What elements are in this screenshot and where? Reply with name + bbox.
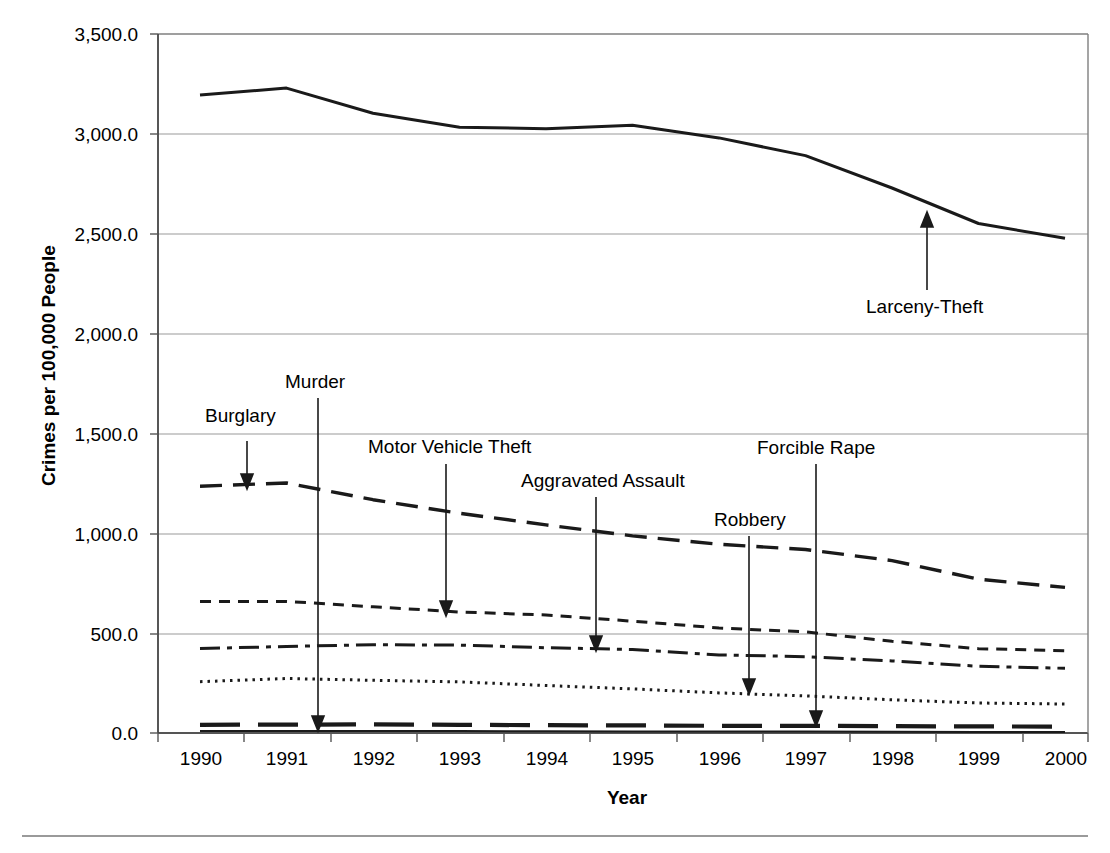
series-layer [200, 88, 1065, 732]
x-tick-label-1995: 1995 [588, 748, 678, 770]
y-axis-title: Crimes per 100,000 People [38, 245, 60, 486]
series-line-aggravated-assault [200, 645, 1065, 669]
annotation-label-aggravated-assault: Aggravated Assault [521, 470, 685, 492]
y-tick-label-1000: 1,000.0 [18, 524, 138, 546]
x-tick-label-1996: 1996 [675, 748, 765, 770]
x-tick-label-2000: 2000 [1021, 748, 1110, 770]
series-line-forcible-rape [200, 724, 1065, 726]
x-tick-label-1992: 1992 [329, 748, 419, 770]
footer-divider [22, 835, 1088, 837]
x-axis-title: Year [527, 787, 727, 809]
arrow-burglary [241, 441, 253, 489]
x-tick-marks [158, 733, 1088, 742]
crime-rates-line-chart: Crimes per 100,000 People 3,500.0 3,000.… [0, 0, 1110, 853]
annotation-label-motor-vehicle-theft: Motor Vehicle Theft [368, 436, 531, 458]
x-tick-label-1991: 1991 [242, 748, 332, 770]
y-tick-label-2500: 2,500.0 [18, 224, 138, 246]
x-tick-label-1999: 1999 [934, 748, 1024, 770]
x-tick-label-1990: 1990 [156, 748, 246, 770]
x-tick-label-1993: 1993 [415, 748, 505, 770]
y-tick-label-3000: 3,000.0 [18, 124, 138, 146]
chart-canvas [0, 0, 1110, 853]
x-tick-label-1997: 1997 [761, 748, 851, 770]
annotation-label-forcible-rape: Forcible Rape [757, 437, 875, 459]
series-line-robbery [200, 679, 1065, 705]
y-tick-label-1500: 1,500.0 [18, 424, 138, 446]
arrow-forcible-rape [810, 464, 822, 726]
series-line-murder [200, 731, 1065, 732]
series-line-burglary [200, 483, 1065, 587]
arrow-aggravated-assault [590, 497, 602, 651]
arrow-robbery [743, 536, 755, 694]
y-tick-marks [150, 34, 158, 733]
arrow-murder [312, 398, 324, 731]
annotation-label-burglary: Burglary [205, 405, 276, 427]
annotation-label-robbery: Robbery [714, 509, 786, 531]
x-tick-label-1994: 1994 [502, 748, 592, 770]
y-tick-label-2000: 2,000.0 [18, 324, 138, 346]
annotation-label-larceny-theft: Larceny-Theft [866, 296, 983, 318]
arrow-larceny-theft [921, 212, 933, 290]
x-tick-label-1998: 1998 [848, 748, 938, 770]
series-line-larceny-theft [200, 88, 1065, 238]
series-line-motor-vehicle-theft [200, 601, 1065, 650]
y-tick-label-0: 0.0 [18, 723, 138, 745]
y-tick-label-500: 500.0 [18, 624, 138, 646]
y-tick-label-3500: 3,500.0 [18, 24, 138, 46]
arrow-motor-vehicle-theft [440, 464, 452, 616]
annotation-label-murder: Murder [285, 371, 345, 393]
